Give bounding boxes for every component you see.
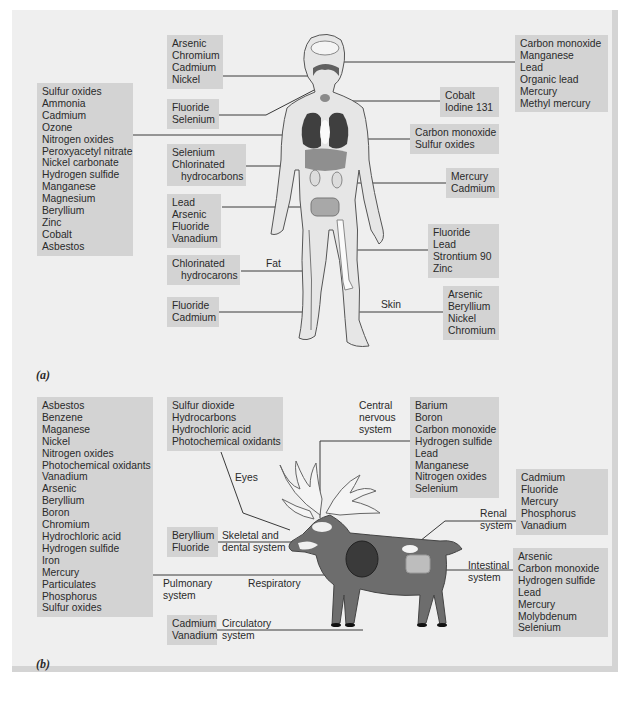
box-skin: Arsenic Beryllium Nickel Chromium: [443, 286, 499, 340]
box-teeth: Fluoride Selenium: [167, 99, 219, 129]
label-circulatory: Circulatory system: [222, 618, 271, 642]
label-renal: Renal system: [480, 508, 513, 532]
box-skeletal: Beryllium Fluoride: [167, 527, 218, 557]
label-respiratory: Respiratory: [248, 578, 301, 590]
box-eyes: Sulfur dioxide Hydrocarbons Hydrochloric…: [167, 397, 283, 451]
label-skin: Skin: [381, 299, 401, 311]
box-lungs-left: Sulfur oxides Ammonia Cadmium Ozone Nitr…: [37, 83, 133, 256]
box-bone: Fluoride Lead Strontium 90 Zinc: [428, 224, 499, 278]
label-eyes: Eyes: [235, 472, 258, 484]
box-circulatory: Cadmium Vanadium: [167, 615, 217, 645]
box-fat: Chlorinated hydrocarons: [167, 255, 240, 285]
box-liver: Selenium Chlorinated hydrocarbons: [167, 144, 246, 186]
box-kidney: Mercury Cadmium: [446, 168, 499, 198]
label-cns: Central nervous system: [359, 400, 396, 436]
panel-label-a: (a): [36, 368, 50, 383]
box-renal: Cadmium Fluoride Mercury Phosphorus Vana…: [516, 469, 608, 535]
box-lungs-right: Carbon monoxide Sulfur oxides: [410, 124, 499, 154]
box-thyroid: Cobalt Iodine 131: [440, 87, 499, 117]
box-pulmonary: Asbestos Benzene Maganese Nickel Nitroge…: [37, 397, 153, 617]
box-intestine: Lead Arsenic Fluoride Vanadium: [167, 194, 221, 248]
box-brain: Carbon monoxide Manganese Lead Organic l…: [515, 35, 608, 112]
box-blood: Fluoride Cadmium: [167, 297, 219, 327]
box-intestinal: Arsenic Carbon monoxide Hydrogen sulfide…: [513, 548, 608, 637]
label-pulmonary: Pulmonary system: [163, 578, 212, 602]
label-skeletal: Skeletal and dental system: [222, 530, 286, 554]
box-mouth: Arsenic Chromium Cadmium Nickel: [167, 35, 223, 89]
brain-organ: [311, 41, 339, 55]
label-intestinal: Intestinal system: [468, 560, 509, 584]
human-body-illustration: [255, 30, 395, 360]
panel-label-b: (b): [36, 657, 50, 672]
box-cns: Barium Boron Carbon monoxide Hydrogen su…: [410, 397, 499, 498]
label-fat: Fat: [266, 258, 281, 270]
